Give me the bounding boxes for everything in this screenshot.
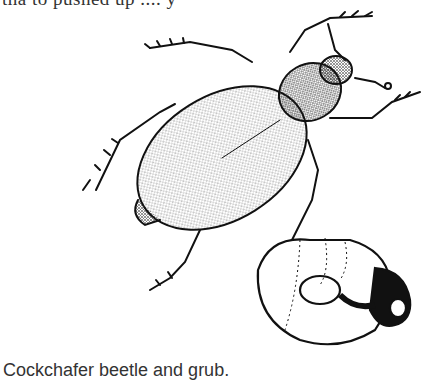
figure-caption: Cockchafer beetle and grub. bbox=[3, 360, 229, 381]
grub bbox=[258, 238, 410, 344]
cockchafer-illustration bbox=[0, 0, 426, 360]
